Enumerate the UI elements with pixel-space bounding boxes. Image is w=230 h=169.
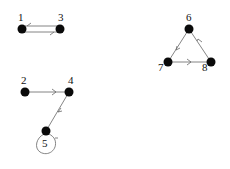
node-label-7: 7 xyxy=(158,61,164,73)
edge-2-to-4 xyxy=(25,89,69,95)
node-label-3: 3 xyxy=(58,11,64,23)
node-5 xyxy=(42,127,51,136)
node-3 xyxy=(56,25,65,34)
graph-diagram: 1 3 2 4 5 6 7 8 xyxy=(0,0,230,169)
node-6 xyxy=(185,25,194,34)
node-7 xyxy=(164,58,173,67)
node-label-5: 5 xyxy=(42,137,48,149)
node-label-4: 4 xyxy=(68,74,74,86)
edge-3-to-1 xyxy=(25,23,58,26)
node-label-6: 6 xyxy=(186,11,192,23)
node-2 xyxy=(21,88,30,97)
node-8 xyxy=(207,58,216,67)
node-1 xyxy=(18,25,27,34)
node-label-1: 1 xyxy=(18,11,24,23)
node-label-8: 8 xyxy=(202,61,208,73)
edge-4-to-5 xyxy=(46,92,69,131)
edge-8-to-6 xyxy=(189,29,211,62)
edge-1-to-3 xyxy=(25,32,58,35)
node-label-2: 2 xyxy=(21,74,27,86)
edge-6-to-7 xyxy=(168,29,189,62)
node-4 xyxy=(65,88,74,97)
